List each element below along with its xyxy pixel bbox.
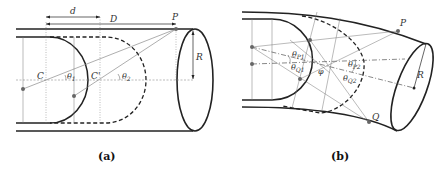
panel-b: P Q R φ θP1 θQ1 θP2 θQ2 (b) (242, 12, 442, 163)
label-C: C (37, 71, 44, 81)
diagram-svg: d D P R C C' θ1 θ2 (a) (0, 0, 444, 173)
point-p-b (396, 29, 400, 33)
label-Q: Q (372, 112, 380, 122)
label-thetaP1: θP1 (292, 50, 305, 60)
label-P: P (171, 12, 179, 22)
caption-a: (a) (98, 150, 116, 163)
caption-b: (b) (331, 150, 349, 163)
label-R: R (195, 52, 203, 62)
center-c-point (21, 87, 25, 91)
label-D: D (109, 14, 117, 24)
label-R-b: R (416, 70, 424, 80)
center-c-prime-point (72, 94, 76, 98)
label-P-b: P (399, 18, 407, 28)
point-p (174, 27, 178, 31)
point-q (367, 120, 371, 124)
label-thetaQ1: θQ1 (291, 63, 305, 73)
figure: d D P R C C' θ1 θ2 (a) (0, 0, 444, 173)
label-d: d (70, 6, 76, 16)
label-C-prime: C' (91, 71, 100, 81)
panel-a: d D P R C C' θ1 θ2 (a) (16, 6, 213, 163)
label-thetaQ2: θQ2 (343, 74, 357, 84)
label-thetaP2: θP2 (348, 60, 361, 70)
label-theta1: θ1 (67, 72, 76, 82)
bent-end-ellipse (382, 39, 442, 136)
label-phi: φ (318, 67, 324, 76)
label-theta2: θ2 (122, 72, 131, 82)
